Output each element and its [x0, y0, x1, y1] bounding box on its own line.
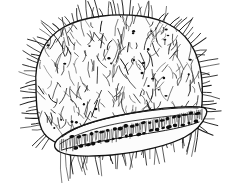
- specimen-illustration: [0, 0, 235, 183]
- figure-root: Hairy rounded organism with striated ven…: [0, 0, 235, 183]
